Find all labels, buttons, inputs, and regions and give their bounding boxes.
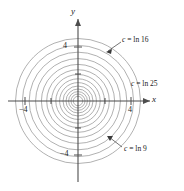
arrowhead-ln9 — [107, 136, 113, 141]
leader-ln16 — [108, 42, 121, 51]
x-axis-arrowhead — [143, 98, 150, 104]
label-ln-9-value: ln 9 — [135, 144, 146, 153]
label-ln-9: c = ln 9 — [124, 145, 147, 153]
y-axis-arrowhead — [75, 19, 81, 26]
y-tick-label-pos4: 4 — [63, 42, 67, 50]
annotation-arrowheads — [106, 49, 113, 141]
diagram-canvas — [0, 0, 184, 191]
label-ln-25: c = ln 25 — [131, 80, 158, 88]
y-axis-label: y — [71, 7, 75, 16]
label-ln-16-value: ln 16 — [133, 35, 148, 44]
x-axis-label: x — [152, 95, 156, 104]
level-curve-figure: x y −4 4 4 −4 c = ln 16 c = ln 25 c = ln… — [0, 0, 184, 191]
x-tick-label-neg4: −4 — [19, 106, 28, 114]
label-ln-25-value: ln 25 — [142, 79, 157, 88]
label-ln-16: c = ln 16 — [122, 36, 149, 44]
y-tick-label-neg4: −4 — [60, 150, 69, 158]
x-tick-label-pos4: 4 — [128, 106, 132, 114]
